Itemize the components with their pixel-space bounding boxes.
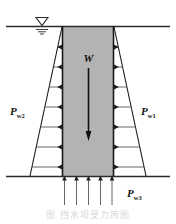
left-arrow-icon [114,65,123,70]
dam-force-diagram: W Pw2 Pw1 Pw3 [0,0,176,224]
left-pressure-envelope [30,27,62,176]
up-arrow-icon [62,176,67,205]
right-arrow-icon [40,125,62,130]
pressure-uplift-subscript: w3 [134,194,143,201]
left-arrow-icon [114,125,136,130]
weight-label-text: W [84,52,95,64]
left-arrow-icon [114,165,144,170]
left-arrow-icon [114,105,131,110]
pressure-left-subscript: w2 [17,112,25,119]
right-arrow-icon [36,145,62,150]
right-arrow-icon [32,165,62,170]
pressure-right-subscript: w1 [148,112,156,119]
left-arrow-icon [114,145,140,150]
water-table-icon [36,18,48,35]
uplift-pressure-arrows [62,176,114,205]
right-pressure-envelope [114,27,146,176]
pressure-uplift-label: Pw3 [127,187,142,201]
pressure-left-label: Pw2 [10,105,25,119]
right-arrow-icon [45,105,62,110]
right-arrow-icon [53,65,62,70]
left-pressure-arrows [32,45,62,170]
left-arrow-icon [114,85,127,90]
up-arrow-icon [110,176,115,205]
up-arrow-icon [74,176,79,205]
pressure-right-label: Pw1 [141,105,156,119]
up-arrow-icon [86,176,91,205]
figure-caption: 图 挡水坝受力简图 [0,208,176,222]
right-pressure-arrows [114,45,144,170]
weight-label: W [84,52,95,64]
right-arrow-icon [49,85,62,90]
up-arrow-icon [98,176,103,205]
